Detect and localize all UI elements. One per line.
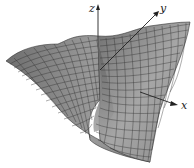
z-axis: z: [88, 2, 100, 36]
z-axis-label: z: [88, 2, 95, 15]
surface-plot: z: [0, 0, 194, 168]
y-axis-label: y: [159, 2, 167, 15]
x-axis-label: x: [181, 99, 188, 112]
surface-mesh: [6, 22, 190, 162]
